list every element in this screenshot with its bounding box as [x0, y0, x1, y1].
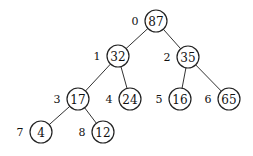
tree-edge — [126, 28, 148, 48]
node-value: 16 — [172, 93, 187, 107]
node-value: 4 — [37, 126, 45, 140]
tree-node: 165 — [156, 88, 192, 110]
tree-edge — [85, 108, 97, 123]
node-value: 17 — [70, 93, 85, 107]
tree-edge — [49, 106, 70, 124]
tree-edge — [121, 67, 127, 89]
node-index-label: 3 — [54, 93, 61, 106]
tree-node: 47 — [17, 121, 53, 143]
node-index-label: 1 — [94, 50, 101, 63]
node-value: 87 — [148, 15, 163, 29]
tree-edge — [85, 64, 110, 91]
node-value: 32 — [110, 50, 125, 64]
tree-node: 128 — [79, 121, 115, 143]
node-index-label: 5 — [156, 93, 163, 106]
tree-node: 352 — [164, 46, 200, 68]
node-index-label: 6 — [205, 93, 212, 106]
heap-tree-diagram: 87032135217324416565647128 — [0, 0, 253, 156]
tree-node: 656 — [205, 88, 241, 110]
tree-edge — [163, 29, 180, 49]
node-index-label: 8 — [79, 126, 86, 139]
node-index-label: 0 — [132, 15, 139, 28]
tree-edge — [182, 68, 186, 88]
node-index-label: 7 — [17, 126, 24, 139]
tree-node: 173 — [54, 88, 90, 110]
tree-edges — [49, 28, 221, 124]
tree-node: 244 — [106, 88, 142, 110]
tree-edge — [196, 65, 222, 91]
node-value: 65 — [221, 93, 236, 107]
tree-node: 321 — [94, 45, 130, 67]
tree-node: 870 — [132, 10, 168, 32]
node-value: 35 — [180, 51, 195, 65]
node-index-label: 2 — [164, 51, 171, 64]
node-index-label: 4 — [106, 93, 113, 106]
node-value: 24 — [122, 93, 138, 107]
node-value: 12 — [95, 126, 110, 140]
